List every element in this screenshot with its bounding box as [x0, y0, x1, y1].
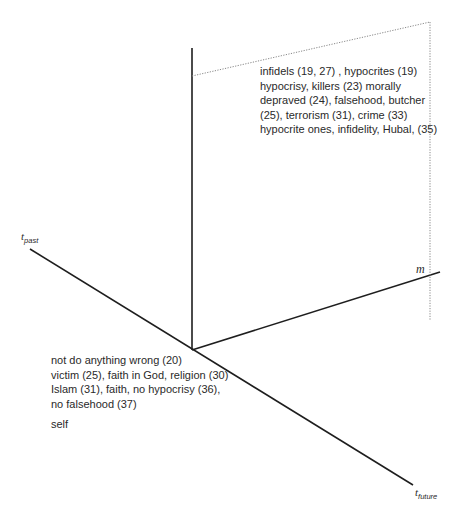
upper-block: infidels (19, 27) , hypocrites (19) hypo…: [260, 64, 437, 137]
t-past-label: tpast: [21, 230, 38, 245]
t-future-subscript: future: [418, 492, 437, 501]
lower-line: victim (25), faith in God, religion (30): [51, 368, 228, 383]
upper-line: hypocrisy, killers (23) morally: [260, 79, 437, 94]
lower-line: Islam (31), faith, no hypocrisy (36),: [51, 382, 228, 397]
m-axis: [192, 272, 440, 350]
upper-line: hypocrite ones, infidelity, Hubal, (35): [260, 122, 437, 137]
lower-line: not do anything wrong (20): [51, 353, 228, 368]
lower-block: not do anything wrong (20) victim (25), …: [51, 353, 228, 432]
m-label: m: [416, 262, 425, 277]
upper-line: infidels (19, 27) , hypocrites (19): [260, 64, 437, 79]
upper-line: (25), terrorism (31), crime (33): [260, 108, 437, 123]
t-future-label: tfuture: [415, 486, 437, 501]
self-label: self: [51, 417, 228, 432]
upper-line: depraved (24), falsehood, butcher: [260, 93, 437, 108]
t-past-subscript: past: [24, 236, 38, 245]
lower-line: no falsehood (37): [51, 397, 228, 412]
